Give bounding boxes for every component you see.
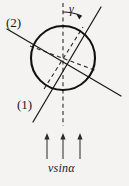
dashed-diagonal-axis-b-line: [44, 27, 83, 89]
figure-container: (2) (1) γ vsinα: [0, 0, 129, 186]
flow-arrow-head-1-icon: [44, 133, 49, 140]
flow-arrow-head-2-icon: [60, 133, 65, 140]
solid-ray-line-2: [7, 29, 121, 96]
label-line-1: (1): [17, 98, 32, 111]
flow-arrow-group: [44, 133, 82, 159]
label-line-2: (2): [6, 16, 21, 29]
solid-ray-line-1: [33, 7, 101, 122]
flow-arrow-head-3-icon: [77, 133, 82, 140]
label-velocity-component: vsinα: [48, 162, 75, 174]
label-angle-gamma: γ: [69, 3, 74, 15]
